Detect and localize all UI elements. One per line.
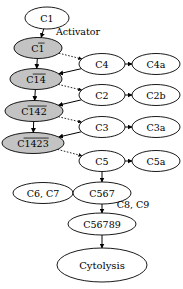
- edge-c1b423-to-c5: [58, 149, 82, 155]
- edge-label-activator: Activator: [55, 26, 101, 37]
- node-shape-c2b: [132, 85, 180, 106]
- node-c4a[interactable]: C4a: [132, 54, 180, 75]
- complement-cascade-diagram: C1C1C14C142C1423C4C4aC2C2bC3C3aC5C5aC6, …: [0, 0, 183, 289]
- edge-c1b4-to-c2: [58, 84, 81, 90]
- node-shape-c5a: [132, 151, 180, 172]
- edge-c4-to-c1b4: [59, 69, 82, 74]
- node-c4[interactable]: C4: [79, 54, 125, 75]
- node-c1b42[interactable]: C142: [5, 101, 63, 122]
- edge-c1b-to-c4: [59, 53, 82, 59]
- node-c1b4[interactable]: C14: [10, 69, 62, 90]
- edge-c1b-to-c1b4: [37, 58, 38, 68]
- node-c5[interactable]: C5: [79, 151, 125, 172]
- node-c567[interactable]: C567: [73, 182, 131, 204]
- node-c1b[interactable]: C1: [14, 38, 62, 59]
- node-cytolysis[interactable]: Cytolysis: [57, 248, 147, 282]
- node-shape-c56789: [68, 213, 136, 235]
- node-shape-c1b4: [10, 69, 62, 90]
- node-shape-cytolysis: [57, 248, 147, 282]
- node-c5a[interactable]: C5a: [132, 151, 180, 172]
- node-shape-c5: [79, 151, 125, 172]
- edge-c1b42-to-c3: [58, 117, 81, 122]
- node-shape-c1b42: [5, 101, 63, 122]
- node-c1[interactable]: C1: [25, 7, 69, 29]
- edge-c3-to-c1b423: [59, 132, 82, 137]
- node-shape-c4a: [132, 54, 180, 75]
- node-shape-c3: [79, 117, 125, 138]
- node-shape-c6c7: [13, 183, 73, 204]
- pathway-graph-canvas: C1C1C14C142C1423C4C4aC2C2bC3C3aC5C5aC6, …: [0, 0, 183, 289]
- node-shape-c1: [25, 7, 69, 29]
- node-c1b423[interactable]: C1423: [2, 133, 64, 154]
- node-shape-c4: [79, 54, 125, 75]
- node-c2[interactable]: C2: [79, 85, 125, 106]
- edge-c2-to-c1b42: [58, 100, 81, 105]
- node-c6c7[interactable]: C6, C7: [13, 183, 73, 204]
- node-shape-c1b423: [2, 133, 64, 154]
- node-c3a[interactable]: C3a: [132, 117, 180, 138]
- node-shape-c3a: [132, 117, 180, 138]
- edge-c1b4-to-c1b42: [35, 89, 36, 100]
- node-c2b[interactable]: C2b: [132, 85, 180, 106]
- node-shape-c567: [73, 182, 131, 204]
- node-shape-c2: [79, 85, 125, 106]
- node-c3[interactable]: C3: [79, 117, 125, 138]
- nodes-layer: C1C1C14C142C1423C4C4aC2C2bC3C3aC5C5aC6, …: [2, 7, 180, 282]
- node-shape-c1b: [14, 38, 62, 59]
- edge-c1-to-c1b: [41, 29, 44, 38]
- node-c56789[interactable]: C56789: [68, 213, 136, 235]
